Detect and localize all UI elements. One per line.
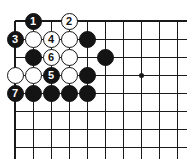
stone-black xyxy=(97,49,114,66)
move-number-label: 6 xyxy=(48,51,54,62)
stone-white xyxy=(61,49,78,66)
stone-white xyxy=(7,67,24,84)
stone-black xyxy=(79,85,96,102)
move-number-label: 1 xyxy=(30,15,36,26)
board-stones: 1234657 xyxy=(0,0,191,159)
stone-white xyxy=(61,67,78,84)
move-number-label: 3 xyxy=(12,33,18,44)
stone-white xyxy=(61,31,78,48)
stone-black-move-3: 3 xyxy=(7,31,24,48)
stone-black xyxy=(25,49,42,66)
move-number-label: 7 xyxy=(12,87,18,98)
stone-white xyxy=(25,31,42,48)
stone-white xyxy=(25,67,42,84)
stone-black-move-7: 7 xyxy=(7,85,24,102)
stone-black-move-5: 5 xyxy=(43,67,60,84)
go-board-diagram: 1234657 xyxy=(0,0,191,159)
stone-black xyxy=(61,85,78,102)
stone-black xyxy=(79,67,96,84)
stone-white-move-6: 6 xyxy=(43,49,60,66)
move-number-label: 4 xyxy=(48,33,54,44)
move-number-label: 5 xyxy=(48,69,54,80)
stone-black xyxy=(79,31,96,48)
stone-black xyxy=(43,85,60,102)
move-number-label: 2 xyxy=(66,15,72,26)
stone-black-move-1: 1 xyxy=(25,13,42,30)
stone-white-move-2: 2 xyxy=(61,13,78,30)
stone-black xyxy=(25,85,42,102)
stone-white-move-4: 4 xyxy=(43,31,60,48)
